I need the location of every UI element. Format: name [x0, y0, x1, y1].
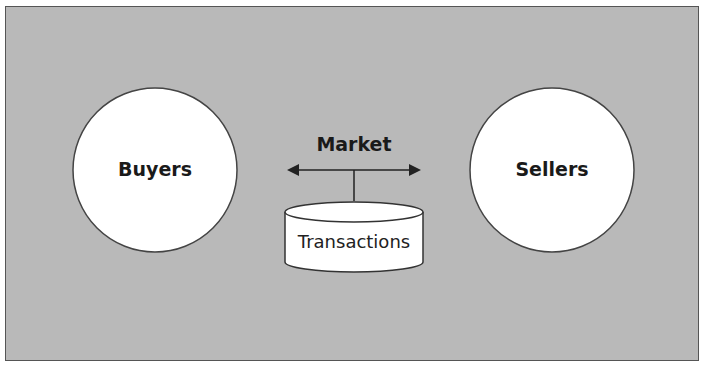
buyers-label: Buyers	[105, 158, 205, 180]
diagram-canvas	[0, 0, 706, 370]
sellers-label: Sellers	[502, 158, 602, 180]
market-label: Market	[304, 133, 404, 155]
transactions-label: Transactions	[285, 231, 423, 252]
